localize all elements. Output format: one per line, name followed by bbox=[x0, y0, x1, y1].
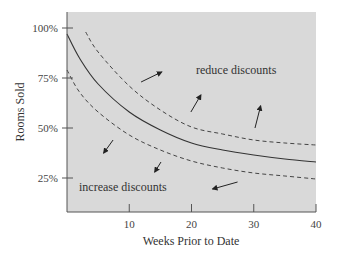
x-tick-label: 20 bbox=[186, 218, 198, 230]
y-tick-label: 25% bbox=[38, 172, 58, 184]
x-tick-label: 10 bbox=[124, 218, 136, 230]
annotation-reduce-discounts: reduce discounts bbox=[196, 63, 277, 77]
y-tick-label: 50% bbox=[38, 122, 58, 134]
y-tick-label: 75% bbox=[38, 72, 58, 84]
booking-threshold-chart: 10203040 25%50%75%100% reduce discounts … bbox=[0, 0, 339, 265]
x-tick-label: 40 bbox=[311, 218, 323, 230]
x-axis-title: Weeks Prior to Date bbox=[143, 234, 240, 248]
y-tick-label: 100% bbox=[32, 22, 58, 34]
y-axis-title: Rooms Sold bbox=[13, 82, 27, 141]
annotation-increase-discounts: increase discounts bbox=[79, 180, 167, 194]
x-tick-label: 30 bbox=[248, 218, 260, 230]
